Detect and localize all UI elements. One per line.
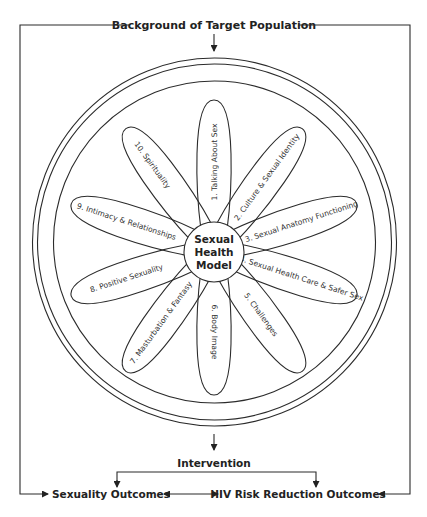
petal-label-positive-sexuality: 8. Positive Sexuality [89,262,165,294]
hiv-risk-reduction-outcomes-label: HIV Risk Reduction Outcomes [210,488,386,500]
sexual-health-model-diagram: Background of Target Population 1. Talki… [0,0,427,517]
hub: Sexual Health Model [184,222,244,282]
hub-line-1: Sexual [194,233,234,245]
petal-label-talking-about-sex: 1. Talking About Sex [210,123,219,201]
petal-1: 1. Talking About Sex [197,100,231,230]
background-title: Background of Target Population [112,19,316,32]
petal-label-spirituality: 10. Spirituality [132,140,172,191]
petal-9: 9. Intimacy & Relationships [66,187,200,260]
hub-line-2: Health [194,246,233,258]
petal-label-body-image: 6. Body Image [210,304,219,359]
petal-label-sexual-health-care: 4. Sexual Health Care & Safer Sex [239,254,365,303]
petal-label-sexual-anatomy: 3. Sexual Anatomy Functioning [244,199,359,244]
sexuality-outcomes-label: Sexuality Outcomes [52,488,170,500]
hub-line-3: Model [196,259,232,271]
intervention-bracket [117,472,316,486]
petal-label-challenges: 5. Challenges [242,291,280,338]
petal-6: 6. Body Image [197,270,231,395]
petal-label-culture-sexual-identity: 2. Culture & Sexual Identity [232,132,301,223]
intervention-label: Intervention [177,457,250,469]
